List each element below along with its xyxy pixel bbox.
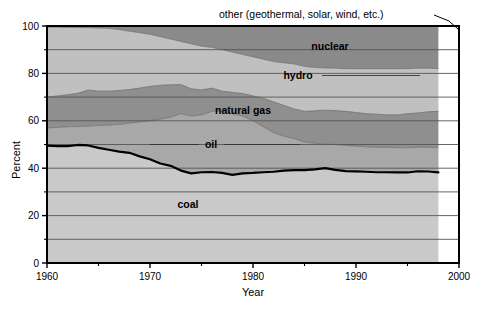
x-tick-label: 1980: [242, 271, 265, 282]
chart-figure: 020406080100 19601970198019902000 Percen…: [0, 0, 491, 309]
y-tick-label: 40: [28, 163, 40, 174]
series-label-nuclear: nuclear: [311, 40, 348, 52]
x-axis-title: Year: [242, 286, 265, 298]
y-tick-label: 0: [33, 258, 39, 269]
x-tick-label: 1970: [139, 271, 162, 282]
y-tick-label: 20: [28, 210, 40, 221]
y-tick-label: 60: [28, 115, 40, 126]
y-tick-label: 100: [22, 21, 39, 32]
x-axis-tick-labels: 19601970198019902000: [36, 271, 471, 282]
series-label-oil: oil: [205, 138, 217, 150]
series-label-coal: coal: [177, 198, 198, 210]
series-label-natural-gas: natural gas: [215, 104, 271, 116]
y-tick-label: 80: [28, 68, 40, 79]
annotation-other-label: other (geothermal, solar, wind, etc.): [219, 8, 384, 20]
x-tick-label: 1990: [345, 271, 368, 282]
series-label-hydro: hydro: [283, 69, 312, 81]
y-axis-tick-labels: 020406080100: [22, 21, 39, 269]
x-tick-label: 1960: [36, 271, 59, 282]
energy-sources-area-chart: 020406080100 19601970198019902000 Percen…: [0, 0, 491, 309]
x-tick-label: 2000: [448, 271, 471, 282]
y-axis-title: Percent: [10, 141, 22, 179]
